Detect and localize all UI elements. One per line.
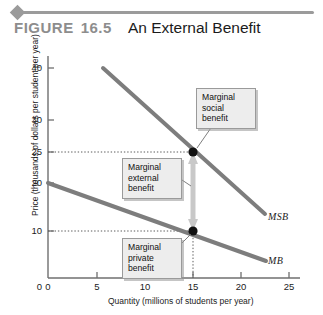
social-benefit-point — [188, 147, 197, 156]
private-benefit-leader-line — [182, 234, 191, 243]
x-tick-label-15: 15 — [183, 281, 203, 292]
private-benefit-point — [188, 226, 197, 235]
x-axis-title: Quantity (millions of students per year) — [108, 296, 254, 306]
y-tick-marks — [48, 68, 54, 231]
marginal-external-benefit-arrow — [188, 152, 198, 231]
x-tick-label-10: 10 — [135, 281, 155, 292]
x-tick-label-20: 20 — [231, 281, 251, 292]
figure-container: FIGURE16.5An External Benefit — [0, 0, 323, 315]
x-tick-label-0: 0 — [38, 281, 58, 292]
marginal-external-benefit-callout: Marginal external benefit — [122, 158, 182, 199]
msb-curve-label: MSB — [268, 211, 288, 222]
marginal-private-benefit-callout: Marginal private benefit — [122, 238, 182, 279]
y-axis-title: Price (thousands of dollars per student … — [30, 10, 40, 240]
x-tick-label-25: 25 — [279, 281, 299, 292]
external-benefit-leader-line — [182, 180, 191, 186]
marginal-social-benefit-callout: Marginal social benefit — [196, 88, 256, 129]
mb-curve-label: MB — [268, 255, 283, 266]
x-tick-label-5: 5 — [87, 281, 107, 292]
